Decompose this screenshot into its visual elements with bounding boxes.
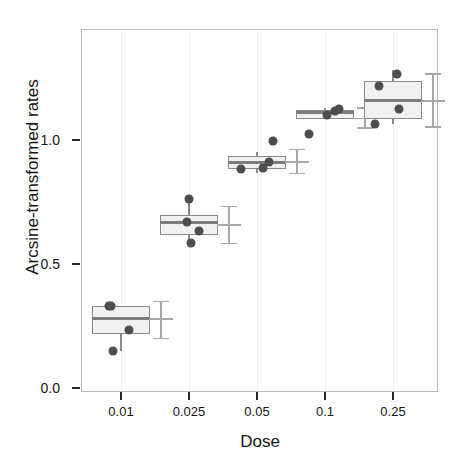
data-point	[371, 119, 380, 128]
data-point	[195, 227, 204, 236]
x-tick-label-5: 0.25	[363, 404, 423, 419]
error-bar-mean-tick-0.025	[217, 224, 241, 226]
median-line-0.01	[92, 317, 150, 320]
gridline-vertical	[325, 30, 326, 391]
data-point	[335, 105, 344, 114]
y-tick-label-1: 1.0	[22, 132, 60, 148]
data-point	[125, 326, 134, 335]
gridline-vertical	[257, 30, 258, 391]
x-tick-label-3: 0.05	[227, 404, 287, 419]
error-bar-cap-top-0.05	[289, 149, 305, 151]
median-line-0.05	[228, 161, 286, 164]
data-point	[237, 165, 246, 174]
data-point	[393, 70, 402, 79]
x-tick-label-1: 0.01	[91, 404, 151, 419]
x-tick-mark-5	[392, 392, 394, 400]
y-tick-mark-0	[72, 387, 80, 389]
error-bar-cap-bottom-0.01	[153, 338, 169, 340]
data-point	[109, 347, 118, 356]
plot-panel	[81, 29, 438, 392]
data-point	[395, 105, 404, 114]
data-point	[305, 130, 314, 139]
y-tick-mark-1	[72, 139, 80, 141]
x-tick-label-2: 0.025	[159, 404, 219, 419]
error-bar-cap-bottom-0.1	[357, 127, 373, 129]
x-axis-label: Dose	[81, 432, 439, 452]
error-bar-cap-top-0.01	[153, 301, 169, 303]
box-0.01	[92, 306, 150, 334]
data-point	[107, 301, 116, 310]
median-line-0.25	[364, 99, 422, 102]
y-tick-label-0: 0.0	[22, 380, 60, 396]
x-tick-mark-2	[188, 392, 190, 400]
data-point	[375, 81, 384, 90]
x-tick-label-4: 0.1	[295, 404, 355, 419]
error-bar-cap-top-0.025	[221, 206, 237, 208]
error-bar-mean-tick-0.01	[149, 318, 173, 320]
x-tick-mark-4	[324, 392, 326, 400]
error-bar-cap-bottom-0.05	[289, 173, 305, 175]
data-point	[269, 137, 278, 146]
y-tick-label-0_5: 0.5	[22, 256, 60, 272]
error-bar-cap-bottom-0.025	[221, 243, 237, 245]
x-tick-mark-1	[120, 392, 122, 400]
error-bar-mean-tick-0.25	[421, 100, 445, 102]
error-bar-cap-top-0.25	[425, 73, 441, 75]
data-point	[183, 218, 192, 227]
x-tick-mark-3	[256, 392, 258, 400]
data-point	[265, 158, 274, 167]
boxplot-figure: Arcsine-transformed rates 1.0 0.5 0.0 0.…	[0, 0, 461, 464]
error-bar-mean-tick-0.05	[285, 161, 309, 163]
data-point	[187, 238, 196, 247]
error-bar-cap-bottom-0.25	[425, 126, 441, 128]
data-point	[185, 195, 194, 204]
y-tick-mark-0_5	[72, 263, 80, 265]
